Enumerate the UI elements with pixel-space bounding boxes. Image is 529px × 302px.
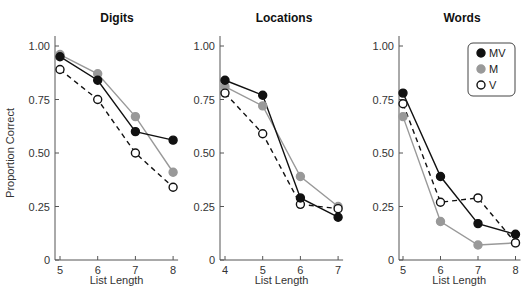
legend-label: MV xyxy=(489,47,506,59)
data-point-v xyxy=(94,96,102,104)
x-axis-label: List Length xyxy=(90,274,144,286)
y-tick-label: 0 xyxy=(388,254,394,266)
data-point-mv xyxy=(56,53,64,61)
data-point-mv xyxy=(169,136,177,144)
series-line-m xyxy=(403,117,516,245)
x-tick-label: 8 xyxy=(512,264,518,276)
y-tick-label: 0 xyxy=(209,254,215,266)
y-tick-label: 0.50 xyxy=(29,147,50,159)
data-point-mv xyxy=(296,194,304,202)
y-tick-label: 0.50 xyxy=(194,147,215,159)
y-tick-label: 0 xyxy=(44,254,50,266)
data-point-m xyxy=(259,102,267,110)
data-point-m xyxy=(131,113,139,121)
data-point-mv xyxy=(334,213,342,221)
data-point-mv xyxy=(399,89,407,97)
data-point-m xyxy=(474,241,482,249)
data-point-mv xyxy=(512,230,520,238)
series-line-mv xyxy=(60,57,173,140)
y-tick-label: 1.00 xyxy=(29,40,50,52)
panel-title: Digits xyxy=(100,11,134,25)
data-point-v xyxy=(437,198,445,206)
data-point-v xyxy=(334,205,342,213)
legend-label: V xyxy=(489,79,497,91)
data-point-v xyxy=(56,66,64,74)
y-tick-label: 0.75 xyxy=(29,94,50,106)
legend-marker-m xyxy=(477,65,485,73)
data-point-v xyxy=(259,130,267,138)
x-tick-label: 7 xyxy=(335,264,341,276)
data-point-mv xyxy=(94,76,102,84)
y-tick-label: 1.00 xyxy=(373,40,394,52)
series-line-v xyxy=(60,70,173,188)
data-point-m xyxy=(296,173,304,181)
data-point-m xyxy=(437,217,445,225)
x-tick-label: 4 xyxy=(222,264,228,276)
series-line-v xyxy=(403,104,516,243)
y-tick-label: 0.25 xyxy=(194,201,215,213)
data-point-mv xyxy=(259,91,267,99)
data-point-mv xyxy=(131,128,139,136)
panel-title: Locations xyxy=(256,11,313,25)
data-point-m xyxy=(169,168,177,176)
data-point-mv xyxy=(474,220,482,228)
x-tick-label: 5 xyxy=(57,264,63,276)
data-point-v xyxy=(131,149,139,157)
y-tick-label: 1.00 xyxy=(194,40,215,52)
data-point-v xyxy=(512,239,520,247)
series-line-m xyxy=(60,55,173,173)
y-axis-label: Proportion Correct xyxy=(4,108,16,198)
panel-locations: Locations00.250.500.751.004567List Lengt… xyxy=(194,11,344,286)
series-line-mv xyxy=(225,80,338,217)
y-tick-label: 0.25 xyxy=(373,201,394,213)
series-line-v xyxy=(225,93,338,209)
data-point-mv xyxy=(437,173,445,181)
y-tick-label: 0.50 xyxy=(373,147,394,159)
x-tick-label: 5 xyxy=(400,264,406,276)
data-point-mv xyxy=(221,76,229,84)
data-point-v xyxy=(474,194,482,202)
legend-marker-mv xyxy=(477,49,485,57)
data-point-v xyxy=(221,89,229,97)
data-point-m xyxy=(399,113,407,121)
x-axis-label: List Length xyxy=(432,274,486,286)
panel-title: Words xyxy=(443,11,480,25)
legend: MVMV xyxy=(468,43,515,96)
x-axis-label: List Length xyxy=(255,274,309,286)
panel-digits: Digits00.250.500.751.005678List LengthPr… xyxy=(4,11,178,286)
y-tick-label: 0.25 xyxy=(29,201,50,213)
data-point-v xyxy=(169,183,177,191)
chart-figure: Digits00.250.500.751.005678List LengthPr… xyxy=(0,0,529,302)
legend-marker-v xyxy=(477,81,485,89)
x-tick-label: 8 xyxy=(170,264,176,276)
y-tick-label: 0.75 xyxy=(373,94,394,106)
y-tick-label: 0.75 xyxy=(194,94,215,106)
data-point-v xyxy=(399,100,407,108)
legend-label: M xyxy=(489,63,498,75)
